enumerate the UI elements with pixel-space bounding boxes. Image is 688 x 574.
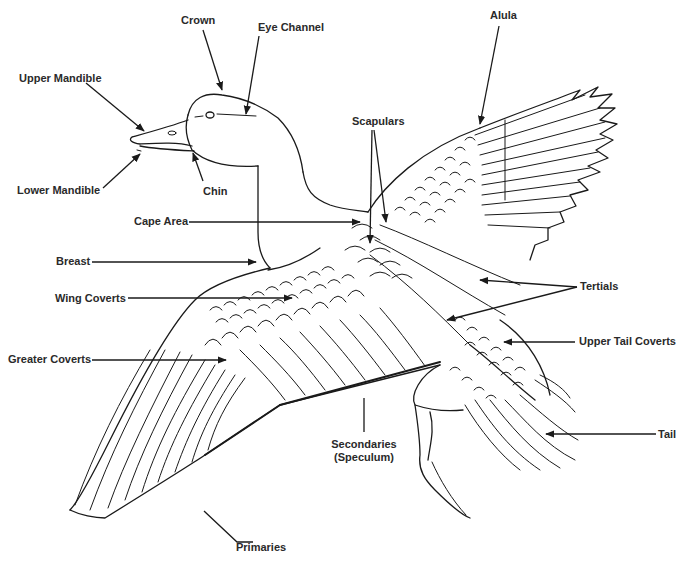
leader-scapulars-a [370,130,372,243]
leader-upper-mandible [86,83,144,131]
leader-lines [86,26,656,542]
label-eye-channel: Eye Channel [258,21,324,34]
scapulars-area [345,224,412,278]
leader-tertials-a [480,280,577,287]
label-tertials: Tertials [580,280,618,293]
right-wing [368,87,617,345]
label-alula: Alula [490,9,517,22]
label-upper-mandible: Upper Mandible [19,72,102,85]
duck-anatomy-diagram: Crown Eye Channel Alula Upper Mandible S… [0,0,688,574]
label-wing-coverts: Wing Coverts [55,292,126,305]
label-tail: Tail [658,428,676,441]
label-secondaries-line1: Secondaries [320,438,408,451]
label-breast: Breast [56,255,90,268]
leader-crown [203,30,222,90]
label-crown: Crown [181,14,215,27]
label-secondaries: Secondaries (Speculum) [320,438,408,464]
label-chin: Chin [203,185,227,198]
label-primaries: Primaries [236,541,286,554]
leader-eye-channel [246,36,259,114]
leader-primaries [204,511,253,542]
leader-lower-mandible [103,154,140,188]
label-secondaries-line2: (Speculum) [320,451,408,464]
duck-head [130,94,303,172]
label-lower-mandible: Lower Mandible [17,184,100,197]
tail-area [414,317,578,518]
label-upper-tail-coverts: Upper Tail Coverts [579,335,676,348]
duck-body [258,166,368,270]
label-scapulars: Scapulars [352,115,405,128]
leader-alula [480,26,499,124]
label-cape-area: Cape Area [134,215,188,228]
leader-scapulars-b [374,130,386,222]
label-greater-coverts: Greater Coverts [8,353,91,366]
